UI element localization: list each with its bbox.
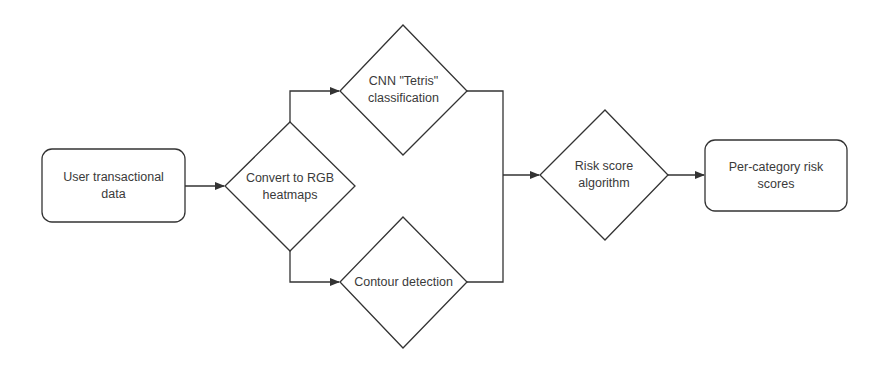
node-risk-label: Risk score algorithm <box>540 110 668 240</box>
edge-convert-to-contour <box>290 251 339 282</box>
node-cnn-label: CNN "Tetris" classification <box>340 25 467 155</box>
node-output-label: Per-category risk scores <box>705 140 847 211</box>
edge-convert-to-cnn <box>290 91 339 122</box>
node-input-label: User transactional data <box>42 149 185 222</box>
node-convert-label: Convert to RGB heatmaps <box>225 122 355 251</box>
node-contour-label: Contour detection <box>340 217 467 348</box>
edge-cnn-to-merge <box>467 91 503 282</box>
